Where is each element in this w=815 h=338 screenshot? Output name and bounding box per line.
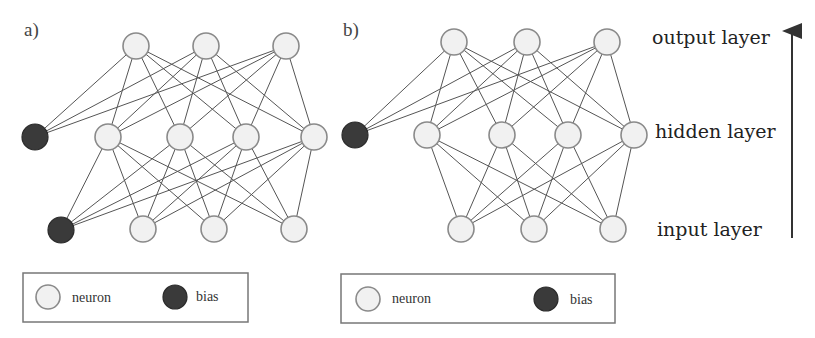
input-neuron <box>448 216 474 242</box>
connection-edge <box>61 137 108 230</box>
panel-a-legend: neuron bias <box>23 273 248 322</box>
output-neuron <box>514 29 540 55</box>
hidden-neuron <box>95 124 121 150</box>
connection-edge <box>286 46 314 137</box>
legend-neuron-icon <box>36 285 60 309</box>
connection-edge <box>568 135 613 229</box>
output-neuron <box>273 33 299 59</box>
output-layer-label: output layer <box>652 26 771 48</box>
hidden-neuron <box>489 122 515 148</box>
connection-edge <box>527 42 568 135</box>
hidden-neuron <box>301 124 327 150</box>
connection-edge <box>294 137 314 229</box>
connection-edge <box>427 135 613 229</box>
connection-edge <box>502 42 527 135</box>
connection-edge <box>613 135 634 229</box>
panel-b-legend: neuron bias <box>341 274 615 323</box>
legend-neuron-label: neuron <box>392 291 431 306</box>
connection-edge <box>454 42 568 135</box>
panel-b-label: b) <box>343 19 359 41</box>
connection-edge <box>607 42 634 135</box>
legend-bias-label: bias <box>196 289 219 304</box>
output-neuron <box>193 33 219 59</box>
neural-network-diagram: a) neuron bias b) neuron bias output lay… <box>0 0 815 338</box>
connection-edge <box>355 42 454 135</box>
connection-edge <box>180 46 286 137</box>
panel-b-nodes <box>342 29 647 242</box>
connection-edge <box>61 137 314 230</box>
connection-edge <box>534 135 568 229</box>
connection-edge <box>108 137 294 229</box>
hidden-neuron <box>233 124 259 150</box>
connection-edge <box>461 135 502 229</box>
connection-edge <box>108 137 214 229</box>
panel-a: a) neuron bias <box>22 19 327 322</box>
connection-edge <box>180 46 206 137</box>
connection-edge <box>568 42 607 135</box>
legend-bias-icon <box>163 285 187 309</box>
input-layer-label: input layer <box>657 218 763 240</box>
legend-neuron-label: neuron <box>72 290 111 305</box>
connection-edge <box>246 137 294 229</box>
input-neuron <box>130 216 156 242</box>
connection-edge <box>143 137 246 229</box>
input-neuron <box>281 216 307 242</box>
panel-a-label: a) <box>24 19 39 41</box>
output-neuron <box>123 33 149 59</box>
hidden-neuron <box>167 124 193 150</box>
hidden-neuron <box>621 122 647 148</box>
connection-edge <box>35 46 286 137</box>
connection-edge <box>136 46 180 137</box>
output-neuron <box>441 29 467 55</box>
hidden-neuron <box>555 122 581 148</box>
connection-edge <box>246 46 286 137</box>
input-neuron <box>600 216 626 242</box>
input-bias-node <box>48 217 74 243</box>
connection-edge <box>461 135 634 229</box>
legend-bias-icon <box>534 287 558 311</box>
output-neuron <box>594 29 620 55</box>
input-neuron <box>521 216 547 242</box>
hidden-neuron <box>414 122 440 148</box>
input-neuron <box>201 216 227 242</box>
connection-edge <box>355 42 527 135</box>
panel-b: b) neuron bias <box>341 19 647 323</box>
hidden-bias-node <box>22 124 48 150</box>
connection-edge <box>461 135 568 229</box>
hidden-layer-label: hidden layer <box>655 120 777 142</box>
hidden-bias-node <box>342 122 368 148</box>
connection-edge <box>108 137 143 229</box>
connection-edge <box>454 42 502 135</box>
legend-bias-label: bias <box>570 292 593 307</box>
legend-neuron-icon <box>356 287 380 311</box>
